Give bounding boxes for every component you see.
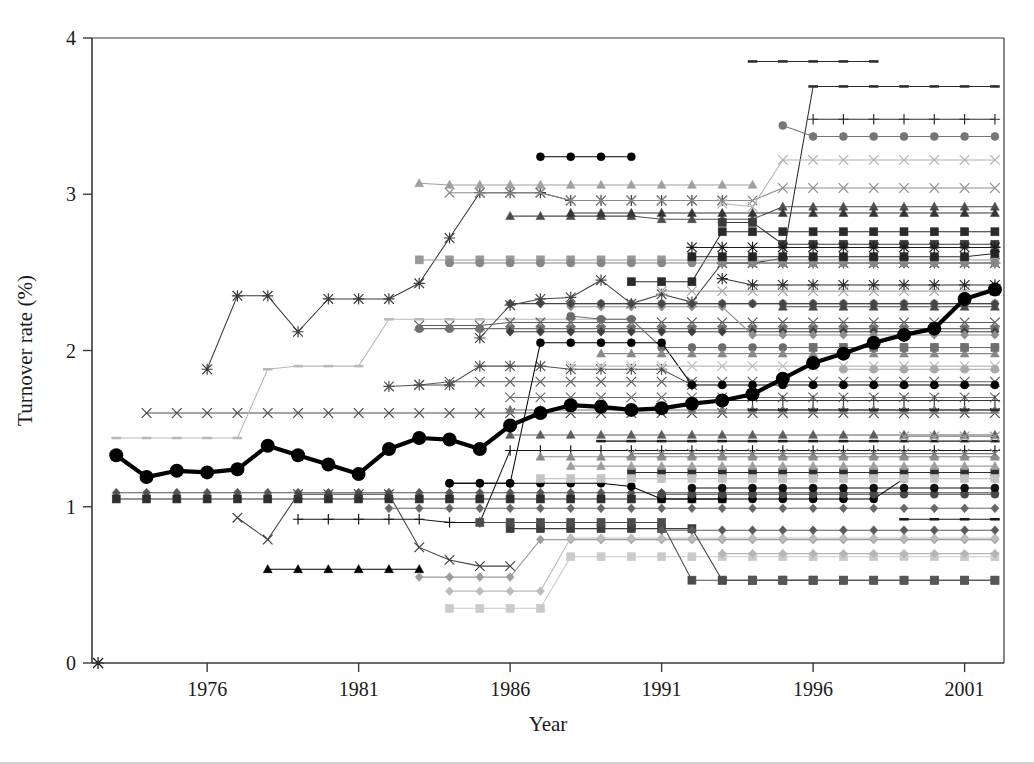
- y-tick-label: 3: [66, 183, 76, 205]
- x-axis-title: Year: [529, 712, 568, 736]
- series-unit-03: [112, 495, 726, 503]
- y-tick-label: 1: [66, 496, 76, 518]
- figure-container: 01234197619811986199119962001Turnover ra…: [0, 0, 1034, 764]
- y-axis-title: Turnover rate (%): [13, 275, 37, 426]
- series-unit-49: [749, 576, 999, 584]
- x-tick-label: 1976: [187, 678, 227, 700]
- series-unit-51: [566, 462, 999, 470]
- y-tick-label: 4: [66, 27, 76, 49]
- y-tick-label: 2: [66, 340, 76, 362]
- x-tick-label: 2001: [945, 678, 985, 700]
- y-tick-label: 0: [66, 652, 76, 674]
- x-tick-label: 1991: [642, 678, 682, 700]
- x-tick-label: 1996: [793, 678, 833, 700]
- series-unit-44: [566, 208, 999, 216]
- x-tick-label: 1981: [339, 678, 379, 700]
- series-unit-59: [748, 409, 1000, 412]
- turnover-rate-line-chart: 01234197619811986199119962001Turnover ra…: [0, 0, 1034, 764]
- x-tick-label: 1986: [490, 678, 530, 700]
